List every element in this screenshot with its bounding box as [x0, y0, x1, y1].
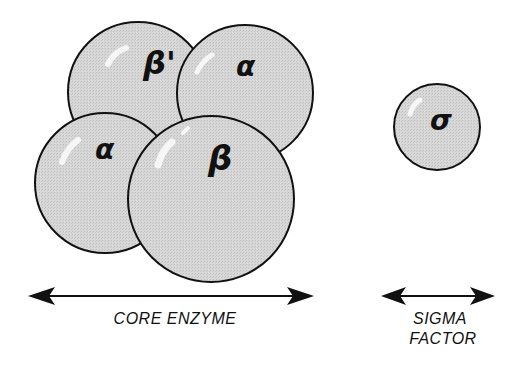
beta-prime-label: β' [143, 44, 176, 82]
sigma-label: σ [430, 104, 452, 137]
core-enzyme-double-arrow [28, 287, 314, 305]
sigma-caption-line2: FACTOR [395, 330, 491, 348]
alpha-top-label: α [236, 50, 255, 83]
core-enzyme-caption: CORE ENZYME [95, 310, 255, 328]
sigma-factor-double-arrow [381, 287, 495, 305]
sigma-caption-line1: SIGMA [395, 310, 485, 328]
beta-label: β [208, 138, 232, 178]
alpha-bottom-label: α [95, 133, 114, 166]
